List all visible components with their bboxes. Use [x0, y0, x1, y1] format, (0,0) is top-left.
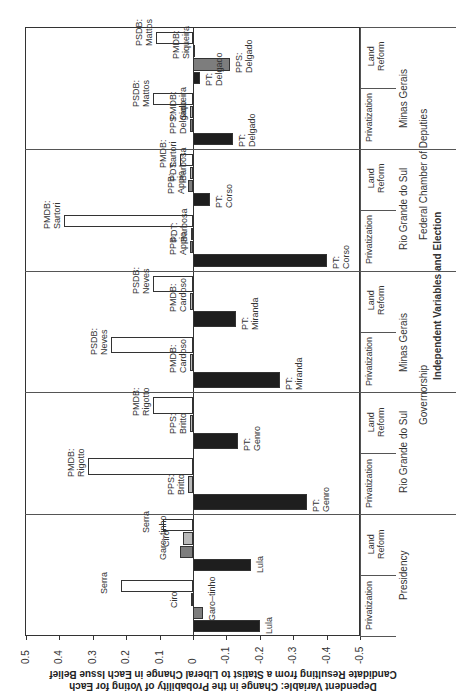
bar-pt-corso — [193, 254, 327, 266]
candidate-label: Garo–tinho — [158, 515, 168, 560]
issue-label-privatization: Privatization — [364, 581, 374, 630]
issue-label-privatization: Privatization — [364, 93, 374, 142]
candidate-label: Serra — [141, 511, 151, 533]
state-label: Minas Gerais — [398, 69, 409, 128]
bar-ciro — [183, 532, 193, 544]
candidate-label: PT:Genro — [242, 426, 262, 451]
candidate-label: PSDB:Mattos — [131, 80, 151, 107]
candidate-label: Lula — [264, 617, 274, 634]
bar-pt-miranda — [193, 372, 280, 389]
bar-pmdb-rigotto — [88, 458, 193, 475]
candidate-label: PSDB:Neves — [131, 267, 151, 294]
candidate-label: PMDB:Cardoso — [168, 278, 188, 312]
y-axis-title-line1: Dependent Variable: Change in the Probab… — [0, 681, 452, 692]
bar-pt-genro — [193, 494, 307, 511]
issue-label-land-reform: LandReform — [366, 407, 386, 437]
axis-tick — [93, 636, 94, 640]
level-label-governorship: Governorship — [418, 365, 429, 425]
bar-pps-delgado — [190, 119, 193, 131]
zero-line — [193, 27, 194, 636]
state-label: Rio Grande do Sul — [398, 411, 409, 493]
level-label-federal: Federal Chamber of Deputies — [418, 109, 429, 240]
bar-lula — [193, 559, 251, 571]
candidate-label: PPS:Delgado — [168, 100, 188, 134]
candidate-label: Garo–tinho — [207, 576, 217, 621]
candidate-label: PT:Genro — [311, 487, 331, 512]
issue-divider — [360, 210, 396, 211]
axis-tick — [26, 636, 27, 640]
axis-tick-label: 0 — [187, 658, 198, 664]
issue-label-privatization: Privatization — [364, 215, 374, 264]
axis-tick — [193, 636, 194, 640]
axis-tick-label: 0.1 — [154, 650, 165, 664]
axis-tick-label: -0.4 — [321, 647, 332, 664]
bar-pt-genro — [193, 433, 238, 450]
bar-pt-delgado — [193, 72, 200, 84]
candidate-label: PT:Corso — [214, 184, 234, 208]
bar-pdt-barbosa — [191, 228, 193, 240]
issue-divider — [360, 575, 396, 576]
axis-tick — [260, 636, 261, 640]
issue-label-land-reform: LandReform — [366, 529, 386, 559]
bar-serra — [121, 580, 193, 592]
axis-tick — [226, 636, 227, 640]
candidate-label: PMDB:Rigotto — [66, 448, 86, 477]
bar-garo-tinho — [193, 607, 203, 619]
bar-lula — [193, 620, 260, 632]
bar-ppb-appio — [190, 241, 193, 253]
rotated-bar-chart: 0.50.40.30.20.10-0.1-0.2-0.3-0.4-0.5PSDB… — [0, 0, 466, 694]
axis-tick-label: 0.4 — [53, 650, 64, 664]
bottom-frame-extension — [360, 636, 396, 637]
candidate-label: PPB:Appio — [166, 171, 186, 194]
panel-divider — [25, 392, 456, 393]
label-column-border — [360, 27, 361, 636]
panel-divider — [25, 271, 456, 272]
candidate-label: PPB:Appio — [168, 232, 188, 255]
axis-tick-label: 0.5 — [20, 650, 31, 664]
bar-pps-britto — [188, 476, 193, 493]
axis-tick-label: -0.3 — [287, 647, 298, 664]
candidate-label: PMDB:Rigotto — [131, 388, 151, 417]
top-frame-extension — [360, 27, 456, 28]
axis-tick-label: 0.2 — [120, 650, 131, 664]
axis-tick — [126, 636, 127, 640]
candidate-label: PT:Miranda — [284, 358, 304, 391]
candidate-label: PT:Miranda — [240, 297, 260, 330]
issue-label-land-reform: LandReform — [366, 286, 386, 316]
bar-pmdb-rigotto — [153, 397, 193, 414]
candidate-label: PSDB:Neves — [89, 328, 109, 355]
candidate-label: PT:Corso — [331, 245, 351, 269]
axis-tick — [59, 636, 60, 640]
candidate-label: PPS:Delgado — [234, 39, 254, 73]
bar-pdt-barbosa — [190, 167, 193, 179]
candidate-label: PT:Delgado — [237, 113, 257, 147]
axis-tick-label: 0.3 — [87, 650, 98, 664]
candidate-label: Serra — [99, 572, 109, 594]
y-axis-title-line2: Candidate Resulting from a Statist to Li… — [0, 669, 452, 680]
level-label-presidency: Presidency — [398, 551, 409, 600]
issue-divider — [360, 453, 396, 454]
bar-pt-delgado — [193, 133, 233, 145]
axis-tick-label: -0.2 — [254, 647, 265, 664]
candidate-label: PMDB:Siqueira — [171, 26, 191, 59]
axis-tick — [327, 636, 328, 640]
candidate-label: PMDB:Cardoso — [168, 339, 188, 373]
bar-pt-corso — [193, 193, 210, 205]
bar-pt-miranda — [193, 311, 236, 328]
candidate-label: Lula — [255, 556, 265, 573]
bar-pmdb-siqueira — [193, 45, 195, 57]
state-label: Minas Gerais — [398, 313, 409, 372]
issue-label-privatization: Privatization — [364, 337, 374, 386]
axis-tick — [160, 636, 161, 640]
axis-tick-label: -0.1 — [220, 647, 231, 664]
issue-label-land-reform: LandReform — [366, 42, 386, 72]
candidate-label: PT:Delgado — [204, 52, 224, 86]
bar-garo-tinho — [180, 546, 193, 558]
candidate-label: PPS:Britto — [166, 474, 186, 495]
bar-ppb-appio — [188, 180, 193, 192]
panel-divider — [25, 149, 456, 150]
bar-ciro — [191, 593, 193, 605]
candidate-label: PPS:Britto — [168, 413, 188, 434]
candidate-label: PSDB:Mattos — [134, 19, 154, 46]
panel-divider — [25, 514, 456, 515]
